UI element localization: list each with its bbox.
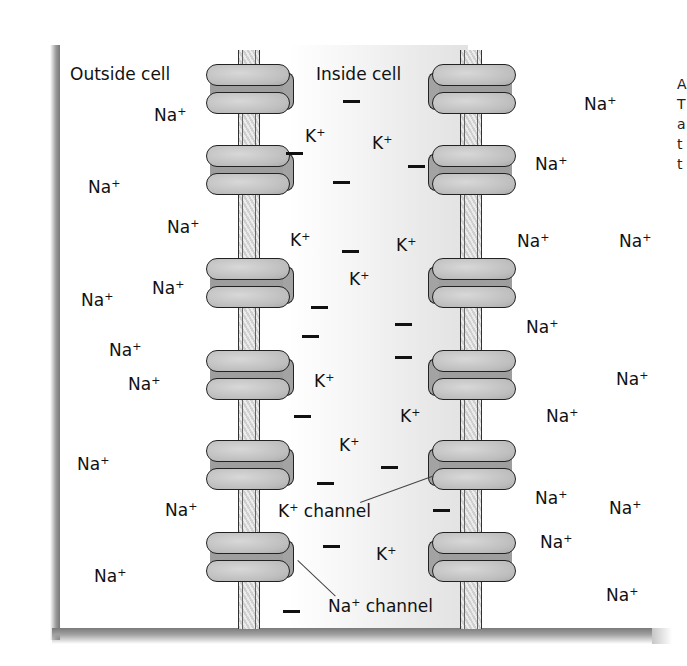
channel-subunit-bottom — [206, 378, 290, 400]
ion-symbol: Na — [152, 278, 175, 298]
clipped-letter: t — [677, 156, 683, 172]
ion-symbol: Na — [88, 177, 111, 197]
ion-symbol: Na — [165, 500, 188, 520]
k-channel-icon — [428, 350, 520, 402]
sodium-ion-label: Na+ — [81, 291, 113, 309]
ion-charge: + — [540, 231, 549, 244]
negative-charge-icon — [395, 356, 412, 359]
channel-subunit-top — [432, 64, 516, 86]
potassium-ion-label: K+ — [314, 372, 334, 390]
ion-symbol: K — [400, 406, 411, 426]
channel-subunit-bottom — [206, 92, 290, 114]
ion-symbol: Na — [540, 532, 563, 552]
ion-charge: + — [117, 566, 126, 579]
potassium-ion-label: K+ — [339, 436, 359, 454]
ion-charge: + — [563, 532, 572, 545]
potassium-ion-label: K+ — [290, 231, 310, 249]
sodium-ion-label: Na+ — [616, 370, 648, 388]
sodium-ion-label: Na+ — [128, 375, 160, 393]
k-channel-icon — [428, 64, 520, 116]
negative-charge-icon — [311, 306, 328, 309]
callout-charge: + — [351, 596, 360, 609]
ion-symbol: Na — [81, 290, 104, 310]
ion-charge: + — [188, 500, 197, 513]
sodium-ion-label: Na+ — [94, 567, 126, 585]
clipped-letter: T — [677, 96, 686, 112]
ion-symbol: Na — [167, 217, 190, 237]
sodium-ion-label: Na+ — [165, 501, 197, 519]
negative-charge-icon — [381, 466, 398, 469]
channel-subunit-top — [432, 350, 516, 372]
ion-charge: + — [629, 585, 638, 598]
ion-charge: + — [549, 317, 558, 330]
heading-inside-cell: Inside cell — [316, 66, 401, 83]
channel-subunit-bottom — [432, 92, 516, 114]
ion-charge: + — [558, 154, 567, 167]
ion-symbol: Na — [109, 340, 132, 360]
ion-charge: + — [132, 340, 141, 353]
ion-symbol: K — [349, 269, 360, 289]
ion-symbol: K — [314, 371, 325, 391]
ion-symbol: K — [339, 435, 350, 455]
ion-charge: + — [607, 94, 616, 107]
ion-charge: + — [558, 488, 567, 501]
ion-symbol: K — [396, 235, 407, 255]
ion-symbol: Na — [584, 94, 607, 114]
ion-symbol: Na — [128, 374, 151, 394]
channel-subunit-top — [206, 258, 290, 280]
k-channel-icon — [428, 532, 520, 584]
callout-k-channel: K+ channel — [278, 502, 371, 520]
ion-symbol: Na — [526, 317, 549, 337]
channel-subunit-top — [432, 258, 516, 280]
negative-charge-icon — [286, 152, 303, 155]
sodium-ion-label: Na+ — [546, 407, 578, 425]
ion-symbol: K — [376, 544, 387, 564]
sodium-ion-label: Na+ — [167, 218, 199, 236]
negative-charge-icon — [283, 610, 300, 613]
negative-charge-icon — [395, 323, 412, 326]
ion-charge: + — [177, 105, 186, 118]
heading-outside-cell: Outside cell — [70, 66, 170, 83]
channel-subunit-bottom — [206, 560, 290, 582]
negative-charge-icon — [408, 165, 425, 168]
channel-subunit-top — [432, 532, 516, 554]
ion-symbol: Na — [616, 369, 639, 389]
sodium-ion-label: Na+ — [77, 455, 109, 473]
channel-subunit-top — [206, 350, 290, 372]
sodium-ion-label: Na+ — [152, 279, 184, 297]
negative-charge-icon — [342, 250, 359, 253]
negative-charge-icon — [294, 415, 311, 418]
ion-charge: + — [383, 133, 392, 146]
sodium-ion-label: Na+ — [606, 586, 638, 604]
ion-charge: + — [632, 498, 641, 511]
channel-subunit-top — [206, 440, 290, 462]
channel-subunit-top — [432, 145, 516, 167]
potassium-ion-label: K+ — [372, 134, 392, 152]
channel-subunit-bottom — [432, 286, 516, 308]
callout-text: channel — [360, 596, 433, 616]
sodium-ion-label: Na+ — [535, 155, 567, 173]
channel-subunit-bottom — [432, 560, 516, 582]
ion-symbol: Na — [77, 454, 100, 474]
channel-subunit-top — [432, 440, 516, 462]
channel-subunit-bottom — [206, 468, 290, 490]
sodium-ion-label: Na+ — [109, 341, 141, 359]
callout-text: channel — [298, 501, 371, 521]
sodium-ion-label: Na+ — [609, 499, 641, 517]
clipped-letter: A — [677, 76, 687, 92]
ion-charge: + — [411, 406, 420, 419]
sodium-ion-label: Na+ — [584, 95, 616, 113]
negative-charge-icon — [343, 100, 360, 103]
channel-subunit-bottom — [432, 378, 516, 400]
potassium-ion-label: K+ — [396, 236, 416, 254]
channel-subunit-bottom — [206, 286, 290, 308]
potassium-ion-label: K+ — [349, 270, 369, 288]
k-channel-icon — [428, 440, 520, 492]
ion-charge: + — [111, 177, 120, 190]
ion-charge: + — [325, 371, 334, 384]
ion-symbol: Na — [535, 154, 558, 174]
ion-symbol: K — [372, 133, 383, 153]
sodium-ion-label: Na+ — [540, 533, 572, 551]
ion-charge: + — [104, 290, 113, 303]
